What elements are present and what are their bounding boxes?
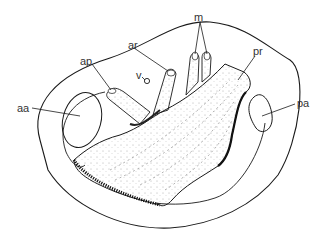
label-aa: aa [17,103,29,114]
label-ap: ap [80,56,92,67]
label-pa: pa [297,98,309,109]
figure-drawing [0,0,328,242]
label-v: v [136,70,142,81]
label-pr: pr [253,46,263,57]
v-pore [144,78,149,83]
label-ar: ar [128,40,138,51]
bivalve-anatomy-figure: aa ap ar v m pr pa [0,0,328,242]
label-m: m [194,12,203,23]
